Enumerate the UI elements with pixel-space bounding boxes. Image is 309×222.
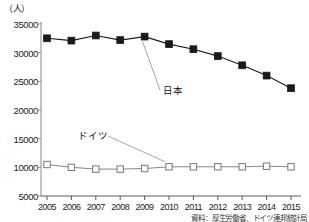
data-point-marker — [141, 33, 148, 40]
data-point-marker — [117, 37, 124, 44]
data-point-marker — [239, 62, 246, 69]
data-point-marker — [92, 32, 99, 39]
data-point-marker — [166, 164, 172, 170]
source-note: 資料：厚生労働省、ドイツ連邦統計局 — [191, 212, 307, 222]
data-point-marker — [190, 46, 197, 53]
data-point-marker — [288, 164, 294, 170]
data-point-marker — [44, 35, 51, 42]
data-point-marker — [239, 164, 245, 170]
annotation-leader-japan — [143, 42, 160, 90]
data-point-marker — [117, 166, 123, 172]
data-point-marker — [215, 164, 221, 170]
data-point-marker — [263, 163, 269, 169]
annotation-leader-germany — [108, 136, 165, 162]
data-point-marker — [68, 164, 74, 170]
plot-area — [0, 0, 309, 222]
data-point-marker — [190, 164, 196, 170]
data-point-marker — [263, 72, 270, 79]
data-point-marker — [166, 41, 173, 48]
data-point-marker — [141, 165, 147, 171]
data-point-marker — [44, 161, 50, 167]
chart-container: （人） 5000100001500020000250003000035000 2… — [0, 0, 309, 222]
data-point-marker — [93, 166, 99, 172]
data-point-marker — [288, 85, 295, 92]
data-point-marker — [214, 53, 221, 60]
data-point-marker — [68, 37, 75, 44]
